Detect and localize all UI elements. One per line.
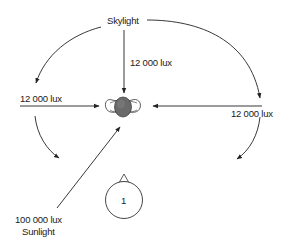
observer-number: 1 [121,195,126,206]
skylight-left-arc-arrow [36,27,101,83]
right-lux-label: 12 000 lux [231,108,273,119]
lighting-diagram: Skylight 12 000 lux 12 000 lux 12 000 lu… [0,0,291,250]
sun-lux-label: 100 000 lux [15,214,62,225]
sunlight-label: Sunlight [22,226,55,237]
right-lower-arc-arrow [237,117,260,159]
top-lux-label: 12 000 lux [130,57,172,68]
left-lux-label: 12 000 lux [20,93,62,104]
left-lower-arc-arrow [35,116,59,158]
subject-head-icon [105,97,140,117]
skylight-label: Skylight [107,15,139,26]
